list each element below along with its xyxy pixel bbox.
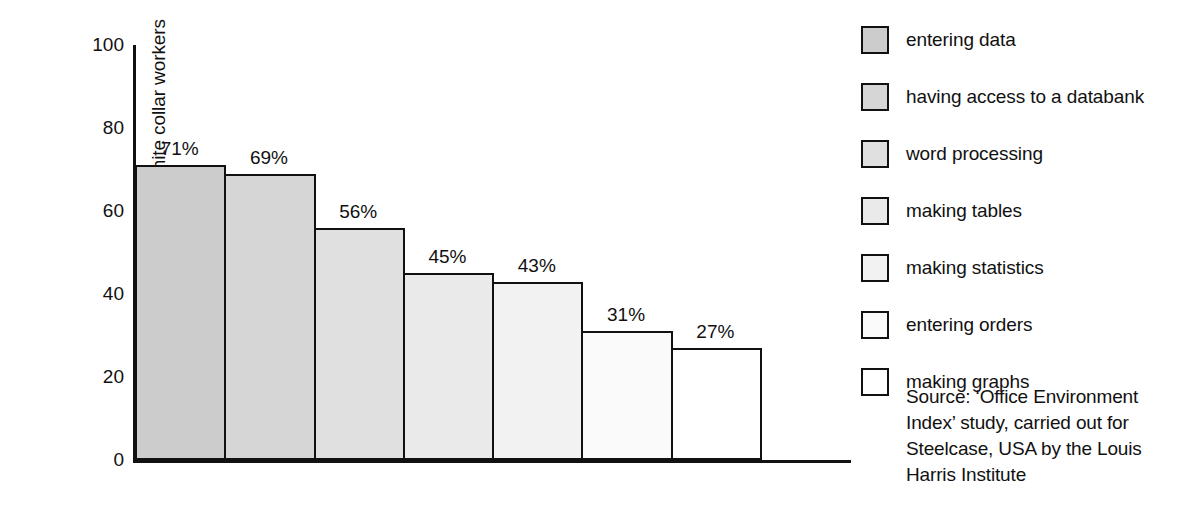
legend-swatch-icon [861,197,889,225]
y-axis-tick-label: 60 [64,201,124,221]
legend-swatch-icon [861,368,889,396]
bar-value-label: 27% [671,321,760,343]
legend: entering datahaving access to a databank… [861,26,1171,425]
source-note-line: Steelcase, USA by the Louis [906,436,1176,462]
bar-value-label: 45% [403,246,492,268]
bar [671,348,762,460]
bar-value-label: 71% [135,138,224,160]
bar-value-label: 43% [492,255,581,277]
legend-item-label: entering data [906,28,1016,52]
plot-area: 71%69%56%45%43%31%27% [135,45,760,460]
bar [581,331,672,460]
y-axis-tick-labels: 020406080100 [58,0,124,505]
legend-swatch-icon [861,83,889,111]
bar [224,174,315,460]
y-axis-tick-label: 80 [64,118,124,138]
legend-item: making statistics [861,254,1171,311]
source-note-line: Harris Institute [906,462,1176,488]
source-note-line: Source: ‘Office Environment [906,384,1176,410]
bar-value-label: 31% [581,304,670,326]
source-note-line: Index’ study, carried out for [906,410,1176,436]
y-axis-tick-label: 40 [64,284,124,304]
legend-item-label: making statistics [906,256,1044,280]
legend-item-label: word processing [906,142,1043,166]
bar [135,165,226,460]
legend-item: making tables [861,197,1171,254]
chart-figure: Number of white collar workers 020406080… [0,0,1180,505]
legend-swatch-icon [861,254,889,282]
legend-item-label: entering orders [906,313,1032,337]
x-axis-line [133,460,851,463]
source-note: Source: ‘Office EnvironmentIndex’ study,… [906,384,1176,488]
legend-item: word processing [861,140,1171,197]
legend-swatch-icon [861,140,889,168]
legend-item: entering data [861,26,1171,83]
legend-swatch-icon [861,311,889,339]
bar [492,282,583,460]
legend-swatch-icon [861,26,889,54]
y-axis-tick-label: 20 [64,367,124,387]
y-axis-tick-label: 100 [64,35,124,55]
legend-item-label: having access to a databank [906,85,1144,109]
bar-value-label: 69% [224,147,313,169]
bar-value-label: 56% [314,201,403,223]
legend-item-label: making tables [906,199,1022,223]
legend-item: entering orders [861,311,1171,368]
bar [314,228,405,460]
bar [403,273,494,460]
legend-item: having access to a databank [861,83,1171,140]
y-axis-tick-label: 0 [64,450,124,470]
